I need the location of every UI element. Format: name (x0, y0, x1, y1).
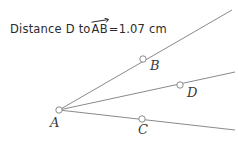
point-A[interactable] (56, 107, 62, 113)
point-label-D: D (187, 85, 197, 100)
caption-equals: = (109, 22, 119, 36)
point-D[interactable] (177, 82, 183, 88)
geometry-figure-canvas: Distance D to AB = 1.07 cm A B C D (0, 0, 238, 143)
point-label-C: C (138, 122, 148, 137)
distance-measurement-caption[interactable]: Distance D to AB = 1.07 cm (10, 22, 167, 36)
caption-prefix: Distance D to (10, 22, 91, 36)
caption-value: 1.07 (119, 22, 145, 36)
point-label-B: B (150, 58, 160, 73)
point-label-A: A (50, 115, 59, 130)
ray-term-text: AB (92, 22, 108, 36)
ray-AB-term: AB (91, 22, 109, 36)
caption-unit: cm (149, 22, 167, 36)
ray-AD[interactable] (59, 72, 235, 110)
point-B[interactable] (140, 56, 146, 62)
